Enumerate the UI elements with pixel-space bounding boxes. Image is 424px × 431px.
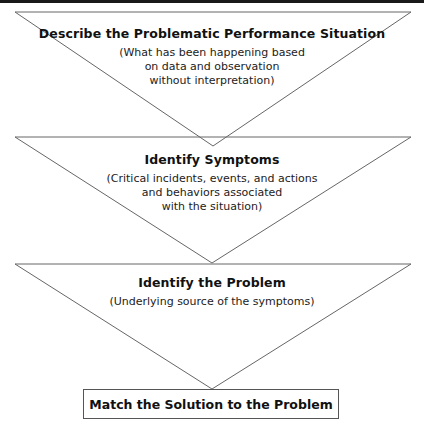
stage-2-description: (Critical incidents, events, and actions… (0, 172, 424, 214)
stage-3-title: Identify the Problem (0, 275, 424, 290)
stage-2-line-3: with the situation) (0, 200, 424, 214)
stage-1-title: Describe the Problematic Performance Sit… (0, 26, 424, 41)
stage-1-description: (What has been happening based on data a… (0, 46, 424, 88)
stage-3-description: (Underlying source of the symptoms) (0, 295, 424, 309)
solution-box: Match the Solution to the Problem (83, 389, 339, 419)
stage-1-line-3: without interpretation) (0, 74, 424, 88)
stage-2-line-2: and behaviors associated (0, 186, 424, 200)
stage-3-line-1: (Underlying source of the symptoms) (0, 295, 424, 309)
stage-1-line-1: (What has been happening based (0, 46, 424, 60)
stage-1-line-2: on data and observation (0, 60, 424, 74)
stage-2-line-1: (Critical incidents, events, and actions (0, 172, 424, 186)
stage-2-title: Identify Symptoms (0, 152, 424, 167)
